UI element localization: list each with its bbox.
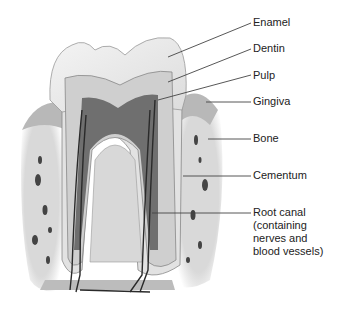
label-cementum: Cementum [253, 169, 307, 182]
label-bone: Bone [253, 132, 279, 145]
label-dentin: Dentin [253, 42, 285, 55]
label-gingiva: Gingiva [253, 95, 290, 108]
tooth-diagram [0, 0, 337, 310]
label-pulp: Pulp [253, 69, 275, 82]
label-root-canal: Root canal (containing nerves and blood … [253, 206, 323, 258]
inner-root-core [90, 145, 142, 262]
label-enamel: Enamel [253, 16, 290, 29]
